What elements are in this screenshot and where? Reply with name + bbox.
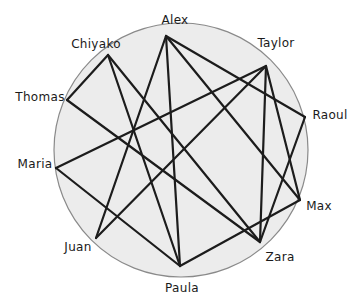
network-diagram: [0, 0, 358, 304]
node-label-juan: Juan: [64, 240, 91, 254]
node-label-raoul: Raoul: [312, 108, 347, 122]
node-label-taylor: Taylor: [257, 36, 294, 50]
node-label-max: Max: [306, 199, 332, 213]
node-label-chiyako: Chiyako: [71, 37, 121, 51]
node-label-paula: Paula: [165, 281, 199, 295]
node-label-zara: Zara: [265, 250, 294, 264]
node-label-thomas: Thomas: [15, 90, 64, 104]
node-label-alex: Alex: [161, 13, 188, 27]
node-label-maria: Maria: [18, 157, 53, 171]
